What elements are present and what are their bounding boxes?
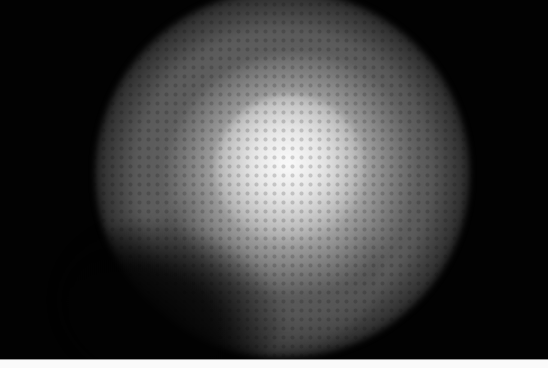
image-frame xyxy=(0,0,548,368)
grayscale-photo xyxy=(0,0,548,359)
bottom-white-strip xyxy=(0,359,548,368)
speckle-texture xyxy=(0,0,548,359)
